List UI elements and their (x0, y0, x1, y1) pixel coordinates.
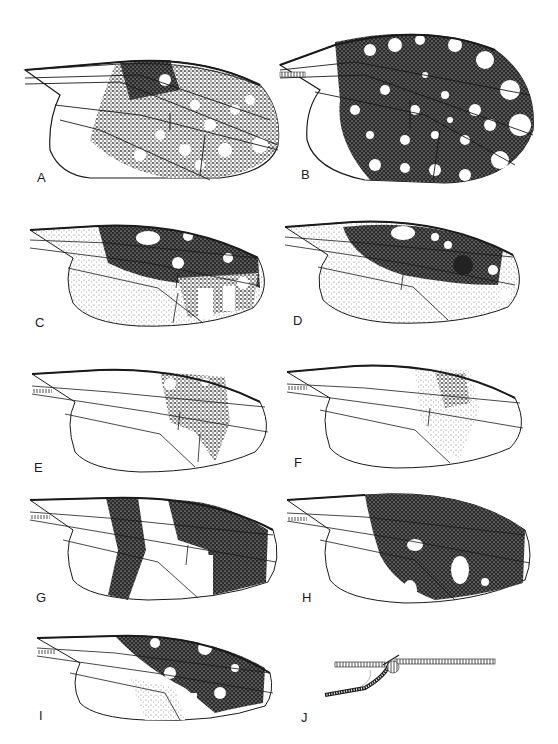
wing-panel-j (315, 650, 475, 700)
wing-panel-b (275, 20, 545, 190)
panel-label-e: E (34, 460, 43, 475)
wing-c-drawing (28, 218, 268, 328)
wing-i-drawing (35, 628, 275, 728)
wing-d-drawing (283, 215, 523, 327)
wing-panel-h (285, 485, 530, 605)
wing-panel-g (28, 490, 278, 602)
wing-j-base-detail (315, 650, 475, 700)
panel-label-c: C (35, 315, 44, 330)
wing-g-drawing (28, 490, 278, 602)
panel-label-d: D (293, 313, 302, 328)
panel-label-i: I (39, 708, 43, 723)
panel-label-b: B (301, 167, 310, 182)
wing-e-drawing (30, 362, 270, 474)
wing-panel-f (285, 358, 525, 470)
panel-label-j: J (301, 710, 308, 725)
wing-panel-i (35, 628, 275, 728)
wing-b-drawing (275, 20, 545, 190)
wing-panel-c (28, 218, 268, 328)
wing-a-drawing (20, 50, 285, 180)
panel-label-g: G (36, 590, 46, 605)
panel-label-h: H (302, 590, 311, 605)
wing-panel-a (20, 50, 285, 180)
panel-label-a: A (37, 170, 46, 185)
wing-h-drawing (285, 485, 530, 605)
wing-f-drawing (285, 358, 525, 470)
wing-panel-e (30, 362, 270, 474)
panel-label-f: F (294, 455, 302, 470)
wing-panel-d (283, 215, 523, 327)
